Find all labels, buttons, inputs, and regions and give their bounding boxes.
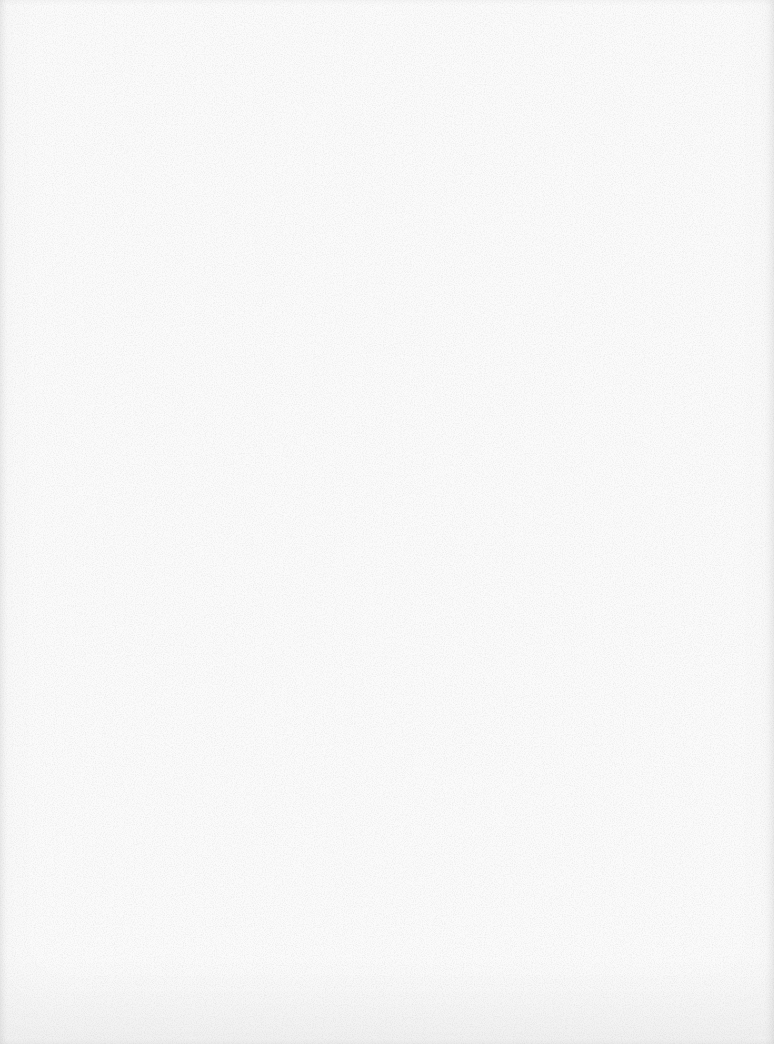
- page-left-edge-shadow: [0, 0, 8, 1044]
- blank-page: [0, 0, 774, 1044]
- page-bottom-shading: [0, 954, 774, 1044]
- page-right-edge-shadow: [764, 0, 774, 1044]
- paper-grain-texture: [0, 0, 774, 1044]
